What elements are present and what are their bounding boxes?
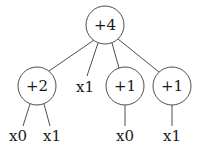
node-label: +1 [114,77,136,95]
expression-tree-diagram: +4+2x1+1+1x0x1x0x1 [0,0,197,147]
node-label: +1 [161,77,183,95]
operator-node-n_plus2: +2 [18,67,56,105]
node-label: x1 [43,127,61,145]
node-label: x1 [163,127,181,145]
variable-node-leaf_x1_b: x1 [163,127,181,145]
edge-root-to-n_plus2 [49,40,94,71]
node-label: +2 [26,77,48,95]
node-label: x1 [76,78,94,96]
edge-root-to-n_plus1_a [112,43,119,68]
edge-n_plus2-to-leaf_x1_a [44,104,50,126]
variable-node-leaf_x1_a: x1 [43,127,61,145]
operator-node-n_plus1_b: +1 [153,67,191,105]
edge-n_plus2-to-leaf_x0_a [23,104,30,126]
operator-node-root: +4 [86,6,124,44]
variable-node-leaf_x0_b: x0 [116,127,134,145]
node-label: x0 [116,127,134,145]
variable-node-leaf_x0_a: x0 [9,127,27,145]
node-label: +4 [94,16,116,34]
variable-node-n_x1_mid: x1 [76,78,94,96]
edge-root-to-n_x1_mid [87,43,98,76]
operator-node-n_plus1_a: +1 [106,67,144,105]
node-label: x0 [9,127,27,145]
tree-nodes: +4+2x1+1+1x0x1x0x1 [9,6,191,145]
